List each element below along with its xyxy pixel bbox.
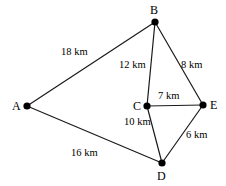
edge-label-a-b: 18 km (61, 46, 88, 57)
vertex-label-e: E (210, 99, 217, 111)
graph-diagram: 18 km12 km8 km7 km10 km6 km16 kmABCDE (0, 0, 226, 186)
vertex-label-b: B (150, 4, 158, 16)
edge-label-c-e: 7 km (158, 90, 179, 101)
edge-label-b-c: 12 km (119, 59, 146, 70)
edge-label-b-e: 8 km (181, 59, 202, 70)
labels-layer: 18 km12 km8 km7 km10 km6 km16 kmABCDE (0, 0, 226, 186)
vertex-label-c: C (133, 100, 141, 112)
vertex-label-a: A (12, 100, 21, 112)
edge-label-a-d: 16 km (71, 147, 98, 158)
vertex-label-d: D (157, 170, 166, 182)
edge-label-d-e: 6 km (186, 129, 207, 140)
edge-label-c-d: 10 km (124, 116, 151, 127)
